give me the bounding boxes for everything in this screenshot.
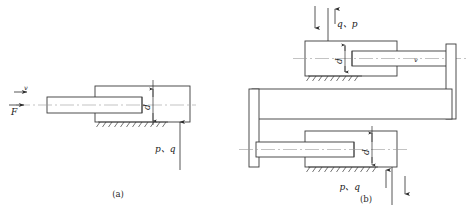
engineering-diagram: v F d p、q (a) [0, 0, 473, 216]
ground-hatch-b-bottom [307, 167, 379, 172]
rod-diameter-label-b-top: d [334, 58, 344, 64]
subfigure-a: v F d p、q (a) [9, 80, 196, 199]
figure-container: v F d p、q (a) [0, 0, 473, 216]
ground-hatch-a [97, 122, 169, 127]
ground-hatch-b-top [307, 76, 363, 81]
port-label-a: p、q [155, 144, 176, 154]
velocity-label-b: v [414, 56, 418, 64]
velocity-label-a: v [24, 84, 28, 92]
connecting-beam-b [252, 89, 452, 119]
caption-a: (a) [112, 189, 124, 199]
subfigure-b: q、p d v [239, 6, 468, 205]
port-label-b-top: q、p [337, 19, 358, 29]
rod-diameter-label-b-bottom: d [361, 149, 371, 155]
caption-b: (b) [360, 194, 372, 204]
force-label-a: F [10, 107, 18, 117]
port-label-b-bottom: p、q [339, 182, 360, 192]
rod-diameter-label-a: d [142, 104, 152, 110]
